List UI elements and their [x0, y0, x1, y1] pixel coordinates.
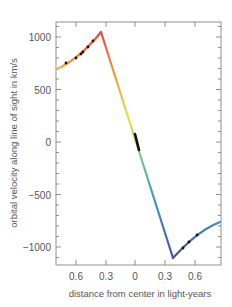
y-tick-labels: 1000 500 0 −500 −1000 — [23, 32, 52, 253]
data-point — [188, 241, 191, 244]
y-tick-0: 0 — [45, 137, 51, 148]
data-point — [196, 234, 199, 237]
y-tick-neg1000: −1000 — [23, 242, 52, 253]
data-point — [65, 62, 68, 65]
curve-right-segment — [173, 222, 220, 258]
x-tick-right-0.3: 0.3 — [158, 271, 172, 282]
observed-data-points — [65, 40, 199, 250]
x-tick-left-0.6: 0.6 — [69, 271, 83, 282]
data-point — [80, 53, 83, 56]
curve-left-segment — [57, 32, 101, 69]
x-tick-0: 0 — [132, 271, 138, 282]
x-axis-label: distance from center in light-years — [69, 288, 212, 299]
y-axis-ticks — [56, 27, 221, 258]
y-tick-500: 500 — [34, 85, 51, 96]
x-tick-left-0.3: 0.3 — [99, 271, 113, 282]
x-tick-right-0.6: 0.6 — [188, 271, 202, 282]
y-tick-neg500: −500 — [28, 190, 51, 201]
chart-figure: 1000 500 0 −500 −1000 0.6 0.3 0 0.3 0.6 … — [0, 0, 232, 307]
data-point — [82, 51, 85, 54]
data-point — [87, 46, 90, 49]
data-point — [75, 57, 78, 60]
data-point — [92, 40, 95, 43]
data-point — [182, 247, 185, 250]
y-axis-label: orbital velocity along line of sight in … — [8, 58, 19, 228]
y-tick-1000: 1000 — [29, 32, 52, 43]
x-tick-labels: 0.6 0.3 0 0.3 0.6 — [69, 271, 202, 282]
